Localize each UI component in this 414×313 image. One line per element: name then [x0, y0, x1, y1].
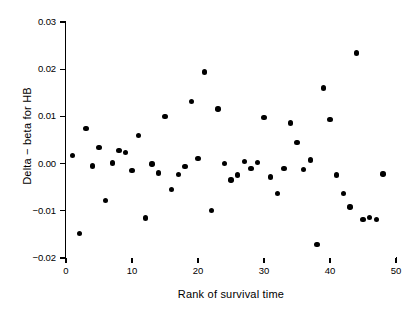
- data-point: [360, 217, 365, 222]
- data-point: [367, 215, 372, 220]
- data-point: [202, 69, 207, 74]
- plot-area: [66, 22, 396, 258]
- x-axis-title: Rank of survival time: [66, 288, 396, 300]
- x-tick-label: 0: [51, 266, 81, 276]
- x-tick-mark: [395, 258, 396, 263]
- y-tick-label: 0.01: [0, 111, 56, 121]
- data-point: [341, 191, 346, 196]
- data-point: [321, 85, 326, 90]
- data-point: [380, 171, 385, 176]
- y-tick-mark: [60, 116, 65, 117]
- data-point: [136, 133, 141, 138]
- data-point: [248, 166, 253, 171]
- data-point: [308, 157, 313, 162]
- data-point: [235, 172, 240, 177]
- data-point: [288, 120, 293, 125]
- data-point: [70, 153, 75, 158]
- data-point: [189, 99, 194, 104]
- y-tick-mark: [60, 257, 65, 258]
- x-tick-mark: [263, 258, 264, 263]
- x-tick-mark: [197, 258, 198, 263]
- data-point: [77, 231, 82, 236]
- data-point: [314, 242, 319, 247]
- y-tick-label: −0.02: [0, 253, 56, 263]
- data-point: [169, 187, 174, 192]
- data-point: [374, 217, 379, 222]
- data-point: [301, 167, 306, 172]
- x-tick-label: 40: [315, 266, 345, 276]
- data-point: [255, 160, 260, 165]
- data-point: [110, 160, 115, 165]
- x-tick-mark: [65, 258, 66, 263]
- data-point: [354, 50, 359, 55]
- y-tick-label: 0.00: [0, 159, 56, 169]
- data-point: [195, 156, 200, 161]
- data-point: [347, 204, 352, 209]
- data-point: [261, 115, 266, 120]
- y-tick-label: −0.01: [0, 206, 56, 216]
- data-point: [275, 191, 280, 196]
- data-point: [242, 159, 247, 164]
- data-point: [182, 164, 187, 169]
- data-point: [162, 114, 167, 119]
- y-tick-label: 0.02: [0, 64, 56, 74]
- data-point: [129, 168, 134, 173]
- y-tick-label: 0.03: [0, 17, 56, 27]
- y-tick-mark: [60, 69, 65, 70]
- data-point: [83, 126, 88, 131]
- data-point: [327, 117, 332, 122]
- data-point: [222, 161, 227, 166]
- data-point: [143, 215, 148, 220]
- data-point: [96, 145, 101, 150]
- x-tick-label: 20: [183, 266, 213, 276]
- y-tick-mark: [60, 210, 65, 211]
- data-point: [123, 150, 128, 155]
- x-tick-label: 30: [249, 266, 279, 276]
- data-point: [149, 161, 154, 166]
- data-point: [116, 148, 121, 153]
- data-point: [281, 166, 286, 171]
- data-point: [215, 106, 220, 111]
- y-tick-mark: [60, 21, 65, 22]
- data-point: [90, 163, 95, 168]
- data-point: [268, 174, 273, 179]
- x-tick-label: 50: [381, 266, 411, 276]
- data-point: [228, 177, 233, 182]
- data-point: [209, 208, 214, 213]
- data-point: [294, 140, 299, 145]
- x-tick-mark: [329, 258, 330, 263]
- x-tick-label: 10: [117, 266, 147, 276]
- x-tick-mark: [131, 258, 132, 263]
- data-point: [176, 172, 181, 177]
- data-point: [156, 170, 161, 175]
- scatter-plot-figure: Delta − beta for HB 0.030.020.010.00−0.0…: [0, 0, 414, 313]
- data-point: [334, 172, 339, 177]
- data-point: [103, 198, 108, 203]
- y-tick-mark: [60, 163, 65, 164]
